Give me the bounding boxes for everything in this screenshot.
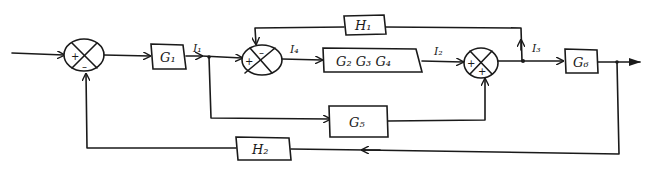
- h2-label: H₂: [251, 142, 269, 157]
- sj1-minus-sign: –: [82, 61, 87, 72]
- sj3-plus-left-sign: +: [467, 58, 475, 69]
- h1-label: H₁: [354, 18, 372, 33]
- signal-i1-label: I₁: [192, 42, 202, 55]
- block-h1: H₁: [344, 15, 386, 35]
- signal-i3-label: I₃: [531, 42, 541, 55]
- block-h2: H₂: [236, 137, 291, 160]
- sj2-minus-sign: –: [259, 47, 264, 58]
- block-g2-g3-g4: G₂ G₃ G₄: [323, 48, 422, 72]
- block-diagram: + – G₁ I₁ + – I₄ G₂ G₃ G₄ I₂ + +: [0, 0, 655, 171]
- summing-junction-1: + –: [64, 39, 104, 72]
- summing-junction-2: + –: [242, 45, 282, 75]
- sj1-plus-sign: +: [71, 51, 79, 62]
- signal-i4-label: I₄: [289, 43, 299, 56]
- block-g1: G₁: [151, 44, 186, 69]
- g234-label: G₂ G₃ G₄: [336, 54, 391, 69]
- signal-i2-label: I₂: [433, 45, 443, 58]
- input-signal: [12, 53, 64, 55]
- g5-label: G₅: [349, 115, 365, 130]
- block-g6: G₆: [565, 49, 598, 73]
- block-g5: G₅: [329, 106, 388, 137]
- g1-label: G₁: [160, 50, 176, 65]
- g6-label: G₆: [573, 55, 589, 70]
- summing-junction-3: + +: [464, 48, 498, 78]
- sj3-plus-bottom-sign: +: [478, 66, 486, 77]
- sj2-plus-sign: +: [245, 56, 253, 67]
